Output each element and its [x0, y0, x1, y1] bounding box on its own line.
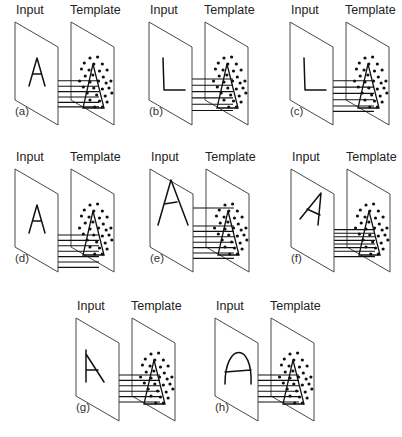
panel-c: InputTemplate(c) [290, 3, 396, 125]
template-label: Template [345, 3, 396, 17]
panel-label: (g) [76, 401, 90, 413]
panel-label: (b) [149, 105, 163, 117]
input-label: Input [16, 3, 44, 17]
input-label: Input [16, 150, 44, 164]
panel-label: (h) [215, 401, 229, 413]
template-label: Template [204, 3, 255, 17]
panel-g: InputTemplate(g) [76, 299, 182, 421]
panel-h: InputTemplate(h) [215, 299, 321, 421]
template-label: Template [70, 3, 121, 17]
template-label: Template [131, 299, 182, 313]
panel-label: (d) [15, 252, 29, 264]
template-label: Template [205, 150, 256, 164]
input-label: Input [77, 299, 105, 313]
input-label: Input [292, 150, 320, 164]
panel-d: InputTemplate(d) [15, 150, 121, 272]
input-label: Input [150, 3, 178, 17]
template-label: Template [270, 299, 321, 313]
template-label: Template [70, 150, 121, 164]
panel-label: (a) [15, 105, 29, 117]
panel-a: InputTemplate(a) [15, 3, 121, 125]
panel-label: (c) [290, 105, 304, 117]
panel-e: InputTemplate(e) [150, 150, 256, 272]
panel-label: (e) [150, 252, 164, 264]
input-label: Input [291, 3, 319, 17]
template-matching-diagram: InputTemplate(a)InputTemplate(b)InputTem… [0, 0, 402, 437]
input-label: Input [216, 299, 244, 313]
panel-f: InputTemplate(f) [291, 150, 397, 272]
panel-label: (f) [291, 252, 302, 264]
match-rays [58, 235, 99, 267]
template-label: Template [346, 150, 397, 164]
input-label: Input [151, 150, 179, 164]
panel-b: InputTemplate(b) [149, 3, 255, 125]
